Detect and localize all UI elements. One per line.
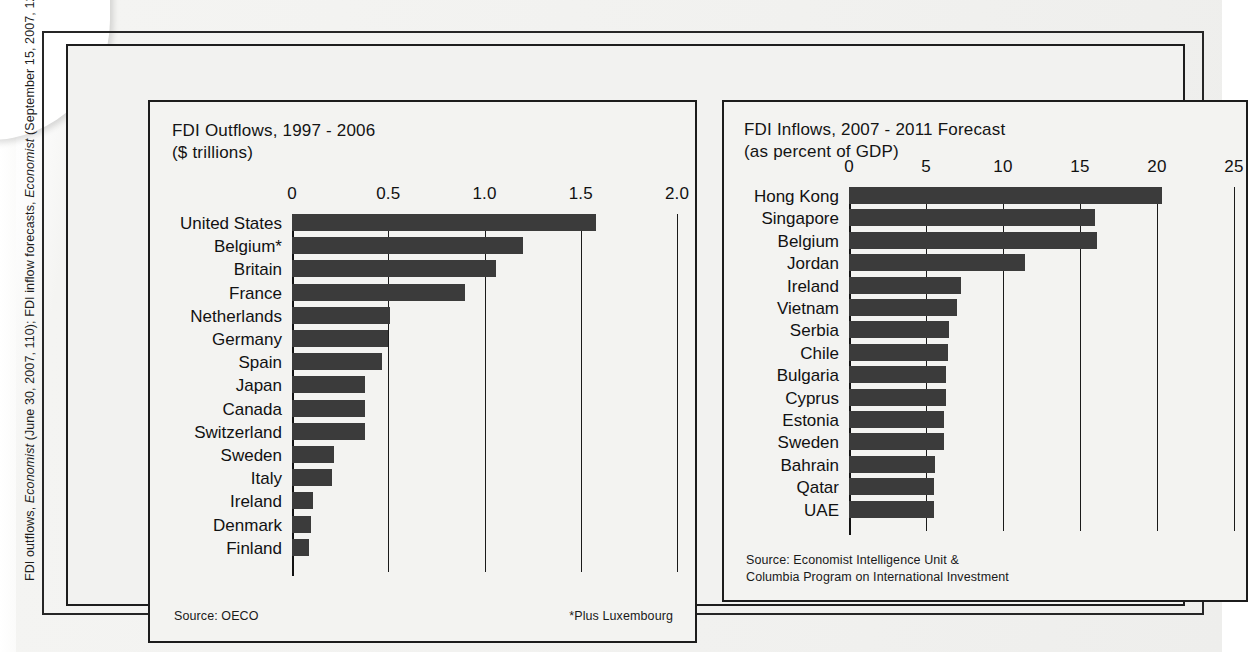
bar bbox=[292, 260, 496, 277]
category-label: Jordan bbox=[787, 255, 839, 272]
x-tick-label: 1.5 bbox=[569, 184, 593, 204]
category-label: Sweden bbox=[221, 447, 282, 464]
bar-row: Hong Kong bbox=[849, 187, 1234, 204]
bar-row: Britain bbox=[292, 260, 677, 277]
category-label: Italy bbox=[251, 470, 282, 487]
bar bbox=[849, 321, 949, 338]
category-label: UAE bbox=[804, 502, 839, 519]
x-tick-label: 25 bbox=[1224, 157, 1243, 177]
category-label: Singapore bbox=[761, 210, 839, 227]
x-tick-label: 15 bbox=[1070, 157, 1089, 177]
bar-row: Singapore bbox=[849, 209, 1234, 226]
bar bbox=[292, 516, 311, 533]
citation-text-e: (September 15, 2007, 121). bbox=[23, 0, 37, 139]
category-label: Britain bbox=[234, 261, 282, 278]
bar bbox=[292, 539, 309, 556]
bar-row: Qatar bbox=[849, 478, 1234, 495]
bar bbox=[849, 366, 946, 383]
bar bbox=[292, 423, 365, 440]
bar-row: Belgium bbox=[849, 232, 1234, 249]
category-label: Qatar bbox=[796, 479, 839, 496]
figure-frame: FDI Outflows, 1997 - 2006 ($ trillions) … bbox=[66, 44, 1185, 606]
x-tick-label: 5 bbox=[921, 157, 931, 177]
plot-area-outflows: 00.51.01.52.0United StatesBelgium*Britai… bbox=[292, 214, 677, 580]
bar bbox=[292, 492, 313, 509]
category-label: Spain bbox=[239, 354, 282, 371]
bar-row: France bbox=[292, 284, 677, 301]
bar-row: Bahrain bbox=[849, 456, 1234, 473]
category-label: Sweden bbox=[778, 434, 839, 451]
bar bbox=[292, 284, 465, 301]
category-label: Switzerland bbox=[194, 424, 282, 441]
category-label: Serbia bbox=[790, 322, 839, 339]
category-label: Denmark bbox=[213, 517, 282, 534]
category-label: Japan bbox=[236, 377, 282, 394]
category-label: Germany bbox=[212, 331, 282, 348]
bar bbox=[849, 389, 946, 406]
x-tick-label: 20 bbox=[1147, 157, 1166, 177]
source-note-outflows: Source: OECO bbox=[174, 608, 259, 625]
bar bbox=[849, 299, 957, 316]
bar-row: Canada bbox=[292, 400, 677, 417]
category-label: Ireland bbox=[787, 278, 839, 295]
bar-row: Serbia bbox=[849, 321, 1234, 338]
category-label: Cyprus bbox=[785, 390, 839, 407]
bar-row: Germany bbox=[292, 330, 677, 347]
bar bbox=[849, 254, 1025, 271]
bar-row: Spain bbox=[292, 353, 677, 370]
bar-row: Jordan bbox=[849, 254, 1234, 271]
x-tick-label: 0 bbox=[287, 184, 297, 204]
category-label: Estonia bbox=[782, 412, 839, 429]
category-label: Bahrain bbox=[780, 457, 839, 474]
bar bbox=[292, 353, 382, 370]
bar-row: Switzerland bbox=[292, 423, 677, 440]
bar bbox=[849, 456, 935, 473]
footnote-outflows: *Plus Luxembourg bbox=[569, 608, 673, 625]
chart-title-inflows: FDI Inflows, 2007 - 2011 Forecast (as pe… bbox=[744, 119, 1005, 163]
bar bbox=[849, 209, 1095, 226]
bar-row: Bulgaria bbox=[849, 366, 1234, 383]
x-tick-label: 1.0 bbox=[472, 184, 496, 204]
citation-text-a: FDI outflows, bbox=[23, 503, 37, 581]
bar bbox=[292, 237, 523, 254]
bar-row: Japan bbox=[292, 376, 677, 393]
bar bbox=[849, 501, 934, 518]
bar-row: Chile bbox=[849, 344, 1234, 361]
gridline bbox=[1234, 187, 1235, 531]
bar-row: Estonia bbox=[849, 411, 1234, 428]
bar-row: UAE bbox=[849, 501, 1234, 518]
bar bbox=[849, 187, 1162, 204]
category-label: France bbox=[229, 285, 282, 302]
bar-row: Belgium* bbox=[292, 237, 677, 254]
bar-row: Sweden bbox=[849, 433, 1234, 450]
bar bbox=[292, 307, 390, 324]
category-label: Canada bbox=[222, 401, 282, 418]
chart-panel-outflows: FDI Outflows, 1997 - 2006 ($ trillions) … bbox=[148, 100, 697, 643]
bar bbox=[292, 214, 596, 231]
bar-row: Finland bbox=[292, 539, 677, 556]
category-label: Bulgaria bbox=[777, 367, 839, 384]
bar-row: Vietnam bbox=[849, 299, 1234, 316]
x-tick-label: 2.0 bbox=[665, 184, 689, 204]
chart-panel-inflows: FDI Inflows, 2007 - 2011 Forecast (as pe… bbox=[722, 100, 1248, 602]
citation-text-b: Economist bbox=[23, 444, 37, 503]
bar-row: Denmark bbox=[292, 516, 677, 533]
category-label: Belgium bbox=[778, 233, 839, 250]
category-label: United States bbox=[180, 215, 282, 232]
bar bbox=[849, 232, 1097, 249]
bar-row: United States bbox=[292, 214, 677, 231]
category-label: Belgium* bbox=[214, 238, 282, 255]
citation-text-d: Economist bbox=[23, 139, 37, 198]
category-label: Netherlands bbox=[190, 308, 282, 325]
bar bbox=[292, 376, 365, 393]
bar bbox=[292, 400, 365, 417]
side-citation: FDI outflows, Economist (June 30, 2007, … bbox=[23, 0, 37, 599]
bar bbox=[292, 469, 332, 486]
chart-title-outflows: FDI Outflows, 1997 - 2006 ($ trillions) bbox=[172, 120, 375, 164]
bar bbox=[849, 478, 934, 495]
category-label: Vietnam bbox=[777, 300, 839, 317]
citation-text-c: (June 30, 2007, 110); FDI inflow forecas… bbox=[23, 198, 37, 444]
category-label: Hong Kong bbox=[754, 188, 839, 205]
bar-row: Netherlands bbox=[292, 307, 677, 324]
bar-row: Cyprus bbox=[849, 389, 1234, 406]
